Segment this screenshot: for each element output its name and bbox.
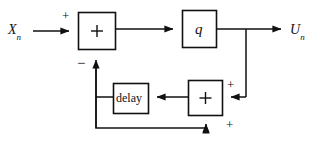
- input-signal-base: X: [8, 22, 17, 37]
- delay-label: delay: [116, 92, 142, 104]
- input-signal-subscript: n: [17, 32, 22, 42]
- summer2-bottom-plus-sign: +: [226, 118, 233, 131]
- block-diagram-canvas: Xn Un + − q delay + +: [0, 0, 321, 141]
- summer2-right-plus-sign: +: [227, 78, 234, 91]
- output-signal-label: Un: [290, 23, 305, 40]
- input-signal-label: Xn: [8, 23, 21, 40]
- output-signal-subscript: n: [300, 32, 305, 42]
- diagram-wires: [0, 0, 321, 141]
- input-plus-sign: +: [62, 9, 69, 22]
- output-signal-base: U: [290, 22, 300, 37]
- summer2-plus-glyph: [200, 92, 212, 104]
- summer1-plus-glyph: [91, 25, 103, 37]
- quantizer-label: q: [195, 22, 203, 37]
- feedback-minus-sign: −: [77, 56, 85, 71]
